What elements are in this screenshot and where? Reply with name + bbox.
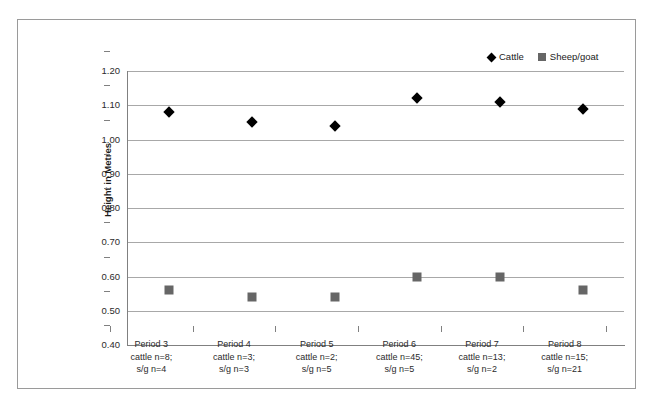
- category-label-line: Period 3: [110, 338, 192, 351]
- y-axis-tick: [104, 85, 110, 86]
- category-label-line: s/g n=2: [441, 363, 523, 376]
- plot-area: [128, 71, 624, 345]
- category-label-line: Period 7: [441, 338, 523, 351]
- x-axis-category-label: Period 4cattle n=3;s/g n=3: [193, 338, 275, 376]
- category-label-line: cattle n=15;: [524, 351, 606, 364]
- data-point-square-marker: [413, 272, 422, 281]
- y-axis-tick: [104, 51, 110, 52]
- category-label-line: cattle n=13;: [441, 351, 523, 364]
- category-label-line: s/g n=4: [110, 363, 192, 376]
- x-axis-tick: [275, 326, 276, 332]
- x-axis-tick: [441, 326, 442, 332]
- y-axis-tick: [104, 257, 110, 258]
- gridline: [128, 71, 624, 72]
- category-label-line: s/g n=3: [193, 363, 275, 376]
- data-point-square-marker: [248, 293, 257, 302]
- category-label-line: Period 8: [524, 338, 606, 351]
- data-point-diamond-marker: [412, 93, 423, 104]
- x-axis-category-label: Period 3cattle n=8;s/g n=4: [110, 338, 192, 376]
- x-axis-category-label: Period 8cattle n=15;s/g n=21: [524, 338, 606, 376]
- gridline: [128, 242, 624, 243]
- x-axis-category-label: Period 5cattle n=2;s/g n=5: [276, 338, 358, 376]
- y-axis-tick-label: 1.10: [84, 99, 120, 110]
- legend-label-sheep-goat: Sheep/goat: [550, 52, 599, 62]
- category-label-line: s/g n=21: [524, 363, 606, 376]
- y-axis-tick: [104, 188, 110, 189]
- y-axis-tick: [104, 222, 110, 223]
- x-axis-category-label: Period 7cattle n=13;s/g n=2: [441, 338, 523, 376]
- y-axis-tick-label: 0.70: [84, 236, 120, 247]
- data-point-diamond-marker: [164, 106, 175, 117]
- legend-entry-cattle: Cattle: [488, 52, 524, 62]
- legend-entry-sheep-goat: Sheep/goat: [538, 52, 599, 62]
- chart-legend: Cattle Sheep/goat: [488, 50, 598, 64]
- category-label-line: cattle n=8;: [110, 351, 192, 364]
- data-point-diamond-marker: [246, 117, 257, 128]
- x-axis-tick: [523, 326, 524, 332]
- gridline: [128, 311, 624, 312]
- y-axis-tick-label: 0.80: [84, 202, 120, 213]
- gridline: [128, 277, 624, 278]
- gridline: [128, 208, 624, 209]
- y-axis-tick-label: 0.50: [84, 305, 120, 316]
- diamond-marker-icon: [487, 52, 497, 62]
- chart-frame: Cattle Sheep/goat Height in Metres 1.201…: [17, 19, 636, 389]
- data-point-square-marker: [165, 286, 174, 295]
- y-axis-tick: [104, 154, 110, 155]
- category-label-line: cattle n=45;: [358, 351, 440, 364]
- x-axis-category-label: Period 6cattle n=45;s/g n=5: [358, 338, 440, 376]
- category-label-line: cattle n=2;: [276, 351, 358, 364]
- x-axis-tick: [110, 326, 111, 332]
- category-label-line: Period 5: [276, 338, 358, 351]
- gridline: [128, 174, 624, 175]
- gridline: [128, 105, 624, 106]
- category-label-line: s/g n=5: [358, 363, 440, 376]
- x-axis-tick: [193, 326, 194, 332]
- y-axis-tick-label: 1.20: [84, 65, 120, 76]
- category-label-line: s/g n=5: [276, 363, 358, 376]
- data-point-square-marker: [578, 286, 587, 295]
- data-point-square-marker: [496, 272, 505, 281]
- y-axis-tick: [104, 291, 110, 292]
- data-point-square-marker: [330, 293, 339, 302]
- y-axis-tick-label: 0.90: [84, 168, 120, 179]
- y-axis-tick-labels: 1.201.101.000.900.800.700.600.500.40: [78, 71, 120, 346]
- gridline: [128, 140, 624, 141]
- y-axis-tick: [104, 120, 110, 121]
- y-axis-tick-label: 1.00: [84, 134, 120, 145]
- y-axis-tick-label: 0.60: [84, 271, 120, 282]
- legend-label-cattle: Cattle: [499, 52, 524, 62]
- category-label-line: Period 6: [358, 338, 440, 351]
- data-point-diamond-marker: [329, 120, 340, 131]
- category-label-line: Period 4: [193, 338, 275, 351]
- square-marker-icon: [538, 53, 546, 61]
- category-label-line: cattle n=3;: [193, 351, 275, 364]
- x-axis-tick: [358, 326, 359, 332]
- x-axis-tick: [606, 326, 607, 332]
